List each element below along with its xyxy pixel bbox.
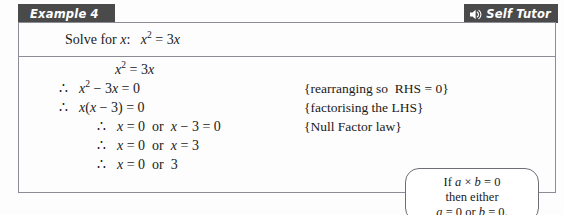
callout-line-1: If a × b = 0: [406, 175, 538, 190]
question-colon: :: [126, 32, 130, 47]
work-line: ∴ x = 0 or x = 3: [19, 136, 555, 155]
work-note: {rearranging so RHS = 0}: [304, 81, 449, 97]
therefore-symbol: ∴: [59, 99, 79, 116]
work-equation: x = 0 or x − 3 = 0: [117, 119, 221, 135]
null-factor-law-callout: If a × b = 0 then either a = 0 or b = 0.: [405, 168, 539, 215]
self-tutor-button[interactable]: Self Tutor: [464, 4, 558, 23]
work-equation: x = 0 or 3: [117, 157, 178, 173]
therefore-symbol: ∴: [59, 80, 79, 97]
question-equation-rhs: = 3x: [152, 32, 180, 47]
work-equation: x(x − 3) = 0: [79, 100, 145, 116]
work-note: {Null Factor law}: [304, 119, 402, 135]
work-line: x2 = 3x: [19, 60, 555, 79]
work-line: ∴ x2 − 3x = 0 {rearranging so RHS = 0}: [19, 79, 555, 98]
therefore-symbol: ∴: [97, 156, 117, 173]
work-line: ∴ x = 0 or x − 3 = 0 {Null Factor law}: [19, 117, 555, 136]
speaker-sound-icon: [469, 7, 483, 20]
callout-line-2: then either: [406, 190, 538, 205]
therefore-symbol: ∴: [97, 137, 117, 154]
work-equation: x2 = 3x: [115, 62, 154, 78]
work-line: ∴ x(x − 3) = 0 {factorising the LHS}: [19, 98, 555, 117]
therefore-symbol: ∴: [97, 118, 117, 135]
self-tutor-label: Self Tutor: [486, 7, 551, 21]
callout-line-3: a = 0 or b = 0.: [406, 205, 538, 215]
work-note: {factorising the LHS}: [304, 100, 423, 116]
work-equation: x = 0 or x = 3: [117, 138, 199, 154]
worked-solution: x2 = 3x ∴ x2 − 3x = 0 {rearranging so RH…: [19, 60, 555, 174]
question-divider: [19, 56, 555, 57]
question-row: Solve for x: x2 = 3x: [19, 23, 555, 56]
worksheet-page: Example 4 Self Tutor Solve for x: x2 = 3…: [0, 0, 564, 215]
question-prompt: Solve for: [65, 32, 120, 47]
work-equation: x2 − 3x = 0: [79, 81, 140, 97]
